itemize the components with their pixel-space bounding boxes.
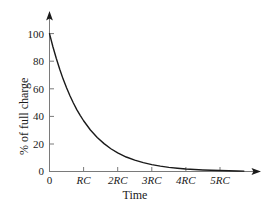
decay-curve xyxy=(50,34,244,171)
x-tick-label-0: 0 xyxy=(40,175,59,186)
y-tick-label-80: 80 xyxy=(20,56,44,67)
x-tick-label-3rc: 3RC xyxy=(136,175,168,186)
y-tick-label-100: 100 xyxy=(17,29,44,40)
x-tick-label-2rc: 2RC xyxy=(102,175,134,186)
x-tick-label-4rc: 4RC xyxy=(170,175,202,186)
y-axis-title: % of full charge xyxy=(18,78,30,155)
y-tick-marks xyxy=(50,34,55,172)
decay-chart-figure: 0 20 40 60 80 100 0 RC 2RC 3RC 4RC 5RC T… xyxy=(0,0,279,208)
x-axis-title: Time xyxy=(105,189,165,201)
x-tick-label-rc: RC xyxy=(71,175,97,186)
x-tick-label-5rc: 5RC xyxy=(204,175,236,186)
